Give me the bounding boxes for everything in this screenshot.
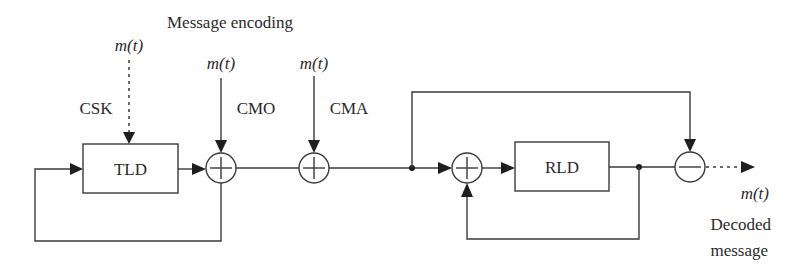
csk-signal-label: m(t) — [115, 36, 144, 55]
message-encoding-title: Message encoding — [167, 13, 294, 32]
rld-input-arrow-icon — [501, 162, 515, 174]
cma-signal-label: m(t) — [300, 54, 329, 73]
cma-arrow-icon — [308, 140, 320, 153]
csk-label: CSK — [79, 99, 113, 118]
adder-cma — [299, 153, 329, 183]
tld-block: TLD — [83, 144, 178, 193]
chaos-communication-diagram: Message encoding m(t) CSK m(t) CMO m(t) … — [0, 0, 798, 272]
tld-label: TLD — [114, 160, 147, 179]
decoded-label-line2: message — [710, 241, 768, 260]
cmo-input: m(t) CMO — [207, 54, 276, 153]
cmo-label: CMO — [237, 99, 276, 118]
adder-receiver-feedback-arrow-icon — [461, 183, 473, 197]
adder-cmo-input-arrow-icon — [192, 163, 206, 175]
adder-receiver-input-arrow-icon — [438, 162, 452, 174]
tld-input-arrow-icon — [70, 163, 83, 175]
rld-block: RLD — [515, 142, 609, 191]
csk-input: m(t) CSK — [79, 36, 143, 144]
cmo-arrow-icon — [215, 140, 227, 153]
csk-arrow-icon — [123, 132, 135, 144]
subtractor — [675, 152, 705, 182]
adder-cmo — [206, 153, 236, 183]
decoded-label-line1: Decoded — [711, 215, 772, 234]
output-signal-label: m(t) — [741, 184, 770, 203]
cma-label: CMA — [330, 99, 369, 118]
subtractor-input-arrow-icon — [684, 139, 696, 152]
output-arrow-icon — [741, 161, 755, 173]
rld-label: RLD — [545, 158, 579, 177]
adder-receiver — [452, 153, 482, 183]
cmo-signal-label: m(t) — [207, 54, 236, 73]
cma-input: m(t) CMA — [300, 54, 369, 153]
